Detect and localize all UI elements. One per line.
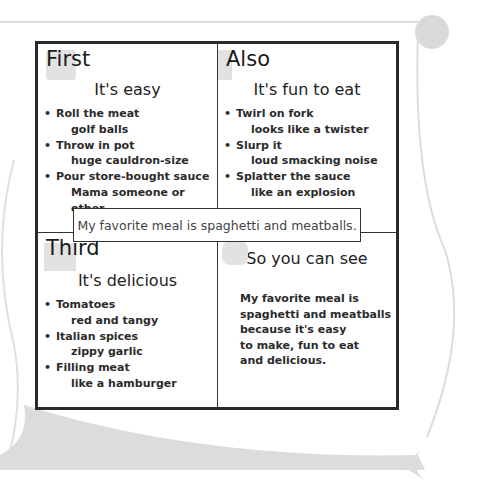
bullet-icon: • xyxy=(224,169,236,185)
quadrant-tag: First xyxy=(46,47,90,71)
bullet-icon: • xyxy=(44,138,56,154)
reason-list: •Tomatoesred and tangy •Italian spiceszi… xyxy=(44,297,177,392)
bullet-icon: • xyxy=(44,360,56,376)
quadrant-subhead: It's easy xyxy=(38,80,217,99)
list-item: •Tomatoesred and tangy xyxy=(44,297,177,329)
quadrant-tag: Also xyxy=(226,47,270,71)
bullet-icon: • xyxy=(224,138,236,154)
list-item: •Twirl on forklooks like a twister xyxy=(224,106,378,138)
quadrant-first: First It's easy •Roll the meatgolf balls… xyxy=(38,44,217,232)
quadrant-conclusion: So you can see My favorite meal is spagh… xyxy=(218,233,396,407)
bullet-icon: • xyxy=(224,106,236,122)
topic-sentence-box: My favorite meal is spaghetti and meatba… xyxy=(73,208,361,242)
quadrant-third: Third It's delicious •Tomatoesred and ta… xyxy=(38,233,217,407)
list-item: •Slurp itloud smacking noise xyxy=(224,138,378,170)
bullet-icon: • xyxy=(44,169,56,185)
list-item: •Filling meatlike a hamburger xyxy=(44,360,177,392)
list-item: •Splatter the saucelike an explosion xyxy=(224,169,378,201)
reason-list: •Twirl on forklooks like a twister •Slur… xyxy=(224,106,378,201)
list-item: •Italian spiceszippy garlic xyxy=(44,329,177,361)
quadrant-also: Also It's fun to eat •Twirl on forklooks… xyxy=(218,44,396,232)
list-item: •Throw in pothuge cauldron-size xyxy=(44,138,217,170)
conclusion-text: My favorite meal is spaghetti and meatba… xyxy=(240,291,391,369)
bullet-icon: • xyxy=(44,106,56,122)
puzzle-piece-icon xyxy=(222,241,248,265)
quadrant-subhead: It's delicious xyxy=(38,271,217,290)
reason-list: •Roll the meatgolf balls •Throw in pothu… xyxy=(44,106,217,217)
list-item: •Roll the meatgolf balls xyxy=(44,106,217,138)
quadrant-subhead: It's fun to eat xyxy=(218,80,396,99)
bullet-icon: • xyxy=(44,329,56,345)
bullet-icon: • xyxy=(44,297,56,313)
